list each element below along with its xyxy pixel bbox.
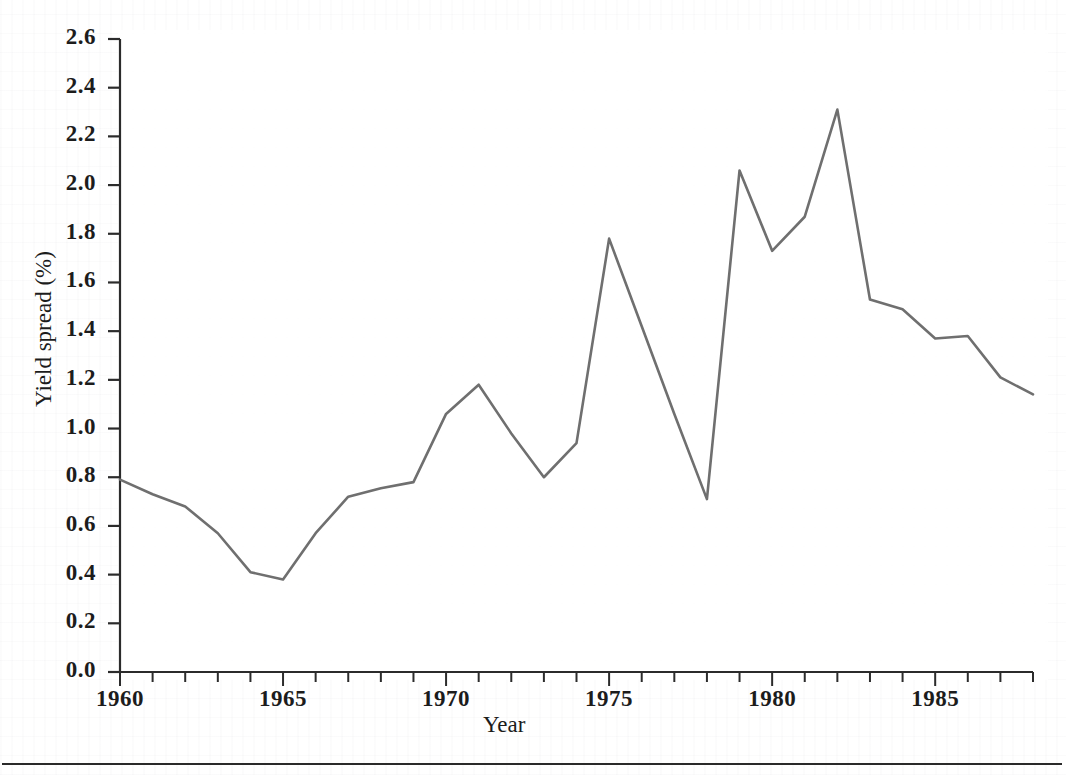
y-tick-label-2.2: 2.2 <box>30 121 96 147</box>
x-tick-label-1980: 1980 <box>727 686 817 712</box>
y-tick-label-0.6: 0.6 <box>30 511 96 537</box>
x-tick-label-1975: 1975 <box>564 686 654 712</box>
x-tick-label-1965: 1965 <box>238 686 328 712</box>
x-axis-title: Year <box>483 712 525 738</box>
data-line-yield-spread <box>120 110 1033 580</box>
y-axis-title: Yield spread (%) <box>31 189 57 469</box>
page-bottom-rule <box>2 763 1062 765</box>
x-tick-label-1960: 1960 <box>75 686 165 712</box>
x-axis-ticks <box>120 672 1033 686</box>
x-tick-label-1970: 1970 <box>401 686 491 712</box>
y-tick-label-0.0: 0.0 <box>30 657 96 683</box>
y-axis-ticks <box>108 39 120 672</box>
y-tick-label-2.6: 2.6 <box>30 24 96 50</box>
x-tick-label-1985: 1985 <box>890 686 980 712</box>
yield-spread-line-chart: 0.00.20.40.60.81.01.21.41.61.82.02.22.42… <box>0 0 1066 775</box>
y-tick-label-0.2: 0.2 <box>30 608 96 634</box>
y-tick-label-2.4: 2.4 <box>30 73 96 99</box>
chart-plot-area <box>0 0 1066 775</box>
y-tick-label-0.4: 0.4 <box>30 560 96 586</box>
